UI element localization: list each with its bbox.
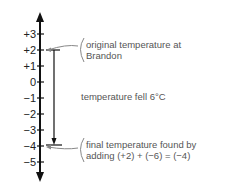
tick-label: +3 [8, 28, 36, 40]
tick-label: −3 [8, 124, 36, 136]
annotation-original-line2: Brandon [86, 50, 122, 61]
leader-original [48, 46, 78, 51]
tick-label: +2 [8, 44, 36, 56]
tick-label: 0 [8, 76, 36, 88]
tick-label: −4 [8, 140, 36, 152]
down-arrow-icon [36, 172, 44, 182]
annotation-fall: temperature fell 6°C [81, 91, 166, 102]
annotation-final-line1: final temperature found by [86, 139, 196, 150]
annotation-original-line1: original temperature at [86, 39, 181, 50]
leader-final [48, 147, 78, 149]
tick-label: −1 [8, 92, 36, 104]
change-arrow-head-icon [52, 138, 57, 145]
tick-label: +1 [8, 60, 36, 72]
tick-label: −2 [8, 108, 36, 120]
annotation-final-line2: adding (+2) + (−6) = (−4) [86, 150, 190, 161]
up-arrow-icon [36, 12, 44, 22]
tick-label: −5 [8, 156, 36, 168]
